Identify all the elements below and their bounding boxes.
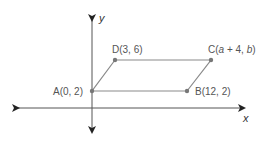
label-point-a: A(0, 2) (53, 86, 83, 97)
label-point-c: C(a + 4, b) (208, 44, 256, 55)
parallelogram-abcd (92, 60, 211, 91)
x-axis-label: x (242, 112, 249, 124)
point-d (113, 58, 117, 62)
label-point-d: D(3, 6) (112, 44, 143, 55)
point-c (209, 58, 213, 62)
y-axis-label: y (98, 12, 106, 24)
label-point-b: B(12, 2) (195, 86, 231, 97)
point-b (185, 89, 189, 93)
point-a (90, 89, 94, 93)
coordinate-plane: y x A(0, 2) B(12, 2) D(3, 6) C(a + 4, b) (0, 0, 266, 144)
